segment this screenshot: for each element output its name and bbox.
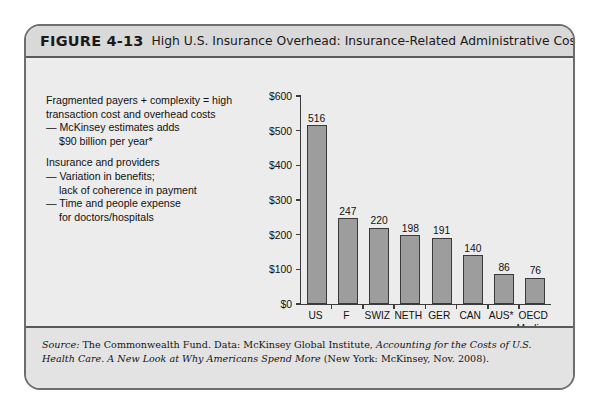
y-axis-tick-label: $100 [269, 264, 292, 275]
x-axis-tick-mark [487, 304, 488, 309]
bar[interactable] [307, 125, 327, 304]
bar-slot[interactable]: 220 [364, 96, 395, 304]
bar[interactable] [400, 235, 420, 304]
narrative-line: transaction cost and overhead costs [46, 108, 274, 122]
bar-value-label: 76 [530, 265, 541, 276]
narrative-line: — Variation in benefits; [46, 170, 274, 184]
chart-plot-area: $600$500$400$300$200$100$0 5162472201981… [300, 96, 551, 305]
bar-value-label: 140 [464, 243, 481, 254]
x-axis-tick-mark [425, 304, 426, 309]
bar-slot[interactable]: 247 [332, 96, 363, 304]
x-axis-label-line1: F [343, 310, 349, 321]
bar-slot[interactable]: 516 [301, 96, 332, 304]
narrative-text-block: Fragmented payers + complexity = high tr… [46, 94, 274, 232]
bar[interactable] [432, 238, 452, 304]
source-segment-2: (New York: McKinsey, Nov. 2008). [321, 353, 489, 364]
source-segment-1: The Commonwealth Fund. Data: McKinsey Gl… [79, 339, 376, 350]
y-axis-tick-label: $0 [280, 299, 292, 310]
figure-header: FIGURE 4-13 High U.S. Insurance Overhead… [26, 26, 573, 58]
y-axis-tick-label: $300 [269, 195, 292, 206]
bar[interactable] [525, 278, 545, 304]
bar-slot[interactable]: 86 [489, 96, 520, 304]
source-prefix: Source: [42, 339, 79, 350]
figure-number-label: FIGURE 4-13 [40, 33, 144, 49]
narrative-line: lack of coherence in payment [46, 184, 274, 198]
x-axis-tick-mark [518, 304, 519, 309]
x-axis-tick-mark [456, 304, 457, 309]
narrative-line: $90 billion per year* [46, 135, 274, 149]
bar[interactable] [369, 228, 389, 304]
bar-slot[interactable]: 198 [395, 96, 426, 304]
bar-series: 5162472201981911408676 [301, 96, 551, 304]
y-axis-tick-label: $400 [269, 160, 292, 171]
bar-value-label: 86 [498, 262, 509, 273]
bar-slot[interactable]: 76 [520, 96, 551, 304]
bar[interactable] [463, 255, 483, 304]
narrative-line: Fragmented payers + complexity = high [46, 94, 274, 108]
figure-card: FIGURE 4-13 High U.S. Insurance Overhead… [24, 24, 575, 390]
source-strip: Source: The Commonwealth Fund. Data: McK… [26, 326, 573, 388]
x-axis-tick-mark [393, 304, 394, 309]
x-axis-label-line1: OECD [519, 310, 548, 321]
x-axis-label-line1: NETH [394, 310, 422, 321]
x-axis-label-line1: SWIZ [365, 310, 390, 321]
bar-value-label: 247 [339, 206, 356, 217]
y-axis-tick-label: $600 [269, 91, 292, 102]
figure-title: High U.S. Insurance Overhead: Insurance-… [152, 34, 575, 48]
figure-body: Fragmented payers + complexity = high tr… [26, 60, 573, 326]
bar-value-label: 516 [308, 113, 325, 124]
narrative-line: for doctors/hospitals [46, 211, 274, 225]
narrative-paragraph-2: Insurance and providers — Variation in b… [46, 156, 274, 224]
bar-slot[interactable]: 140 [457, 96, 488, 304]
x-axis-label-line1: CAN [459, 310, 481, 321]
x-axis-tick-mark [331, 304, 332, 309]
x-axis-label-line1: GER [428, 310, 450, 321]
y-axis-tick-label: $200 [269, 229, 292, 240]
narrative-line: — Time and people expense [46, 197, 274, 211]
bar-value-label: 191 [433, 225, 450, 236]
source-note: Source: The Commonwealth Fund. Data: McK… [42, 338, 555, 365]
narrative-paragraph-1: Fragmented payers + complexity = high tr… [46, 94, 274, 148]
narrative-line: Insurance and providers [46, 156, 274, 170]
bar-value-label: 220 [371, 215, 388, 226]
x-axis-label-line1: US [308, 310, 322, 321]
y-axis-tick-label: $500 [269, 125, 292, 136]
bar[interactable] [494, 274, 514, 304]
x-axis-tick-mark [362, 304, 363, 309]
bar-value-label: 198 [402, 223, 419, 234]
bar-slot[interactable]: 191 [426, 96, 457, 304]
bar-chart: $600$500$400$300$200$100$0 5162472201981… [252, 88, 562, 350]
x-axis-label-line1: AUS* [489, 310, 514, 321]
narrative-line: — McKinsey estimates adds [46, 121, 274, 135]
bar[interactable] [338, 218, 358, 304]
